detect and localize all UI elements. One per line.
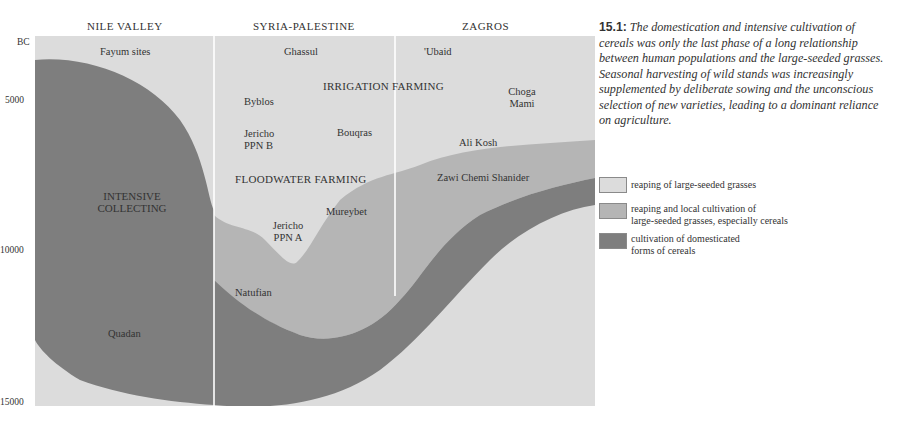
region-zagros: ZAGROS [462, 20, 509, 32]
legend-label: reaping and local cultivation oflarge-se… [631, 203, 788, 226]
label-intensive-collecting: INTENSIVECOLLECTING [92, 190, 172, 214]
y-tick-5000: 5000 [5, 95, 24, 105]
legend-label: cultivation of domesticatedforms of cere… [631, 233, 740, 256]
legend-item-domesticated: cultivation of domesticatedforms of cere… [599, 233, 740, 256]
label-natufian: Natufian [235, 287, 272, 299]
cereal-domestication-diagram [0, 0, 600, 428]
label-mureybet: Mureybet [326, 206, 367, 218]
legend-label: reaping of large-seeded grasses [631, 177, 756, 191]
label-floodwater-farming: FLOODWATER FARMING [235, 173, 366, 185]
label-jericho-ppna: JerichoPPN A [270, 220, 306, 244]
figure-caption: 15.1: The domestication and intensive cu… [599, 20, 889, 129]
y-axis-unit: BC [17, 37, 30, 47]
label-bouqras: Bouqras [337, 127, 372, 139]
label-quadan: Quadan [108, 328, 141, 340]
label-fayum-sites: Fayum sites [100, 46, 150, 58]
label-zawi-chemi-shanider: Zawi Chemi Shanider [437, 172, 529, 184]
legend-swatch-dark [599, 233, 627, 249]
label-byblos: Byblos [244, 96, 274, 108]
legend-item-local-cultivation: reaping and local cultivation oflarge-se… [599, 203, 788, 226]
region-syria-palestine: SYRIA-PALESTINE [253, 20, 355, 32]
y-tick-15000: 15000 [0, 397, 24, 407]
legend-item-reaping: reaping of large-seeded grasses [599, 177, 756, 193]
label-ghassul: Ghassul [284, 46, 318, 58]
region-nile-valley: NILE VALLEY [87, 20, 163, 32]
legend-swatch-light [599, 177, 627, 193]
legend-swatch-medium [599, 203, 627, 219]
label-choga-mami: ChogaMami [507, 86, 537, 110]
y-tick-10000: 10000 [0, 245, 24, 255]
caption-text: The domestication and intensive cultivat… [599, 20, 883, 127]
label-irrigation-farming: IRRIGATION FARMING [323, 80, 444, 92]
label-jericho-ppnb: JerichoPPN B [244, 128, 274, 152]
label-ali-kosh: Ali Kosh [459, 137, 497, 149]
figure-number: 15.1: [599, 20, 627, 34]
label-ubaid: 'Ubaid [424, 46, 452, 58]
